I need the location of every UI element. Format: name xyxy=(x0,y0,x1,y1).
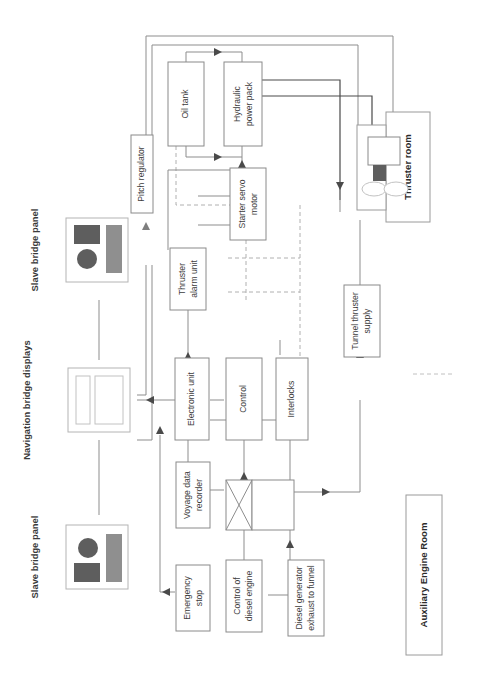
thruster-shaft-icon xyxy=(373,165,386,181)
slave-bridge-panel-top[interactable] xyxy=(66,218,128,282)
diesel-generator-exhaust-label-2: exhaust to funnel xyxy=(306,565,316,631)
node-generator-engine-block[interactable] xyxy=(226,480,294,530)
panel-bottom-lever-icon xyxy=(106,534,122,582)
control-label: Control xyxy=(238,385,248,413)
control-of-diesel-engine-label-2: diesel engine xyxy=(244,570,254,621)
node-control[interactable]: Control xyxy=(226,358,262,440)
arrow-estop-up xyxy=(156,426,164,434)
node-diesel-generator-exhaust[interactable]: Diesel generator exhaust to funnel xyxy=(288,560,324,636)
link-diesel-exhaust xyxy=(268,530,290,595)
auxiliary-engine-room-label: Auxiliary Engine Room xyxy=(418,522,429,627)
thruster-motor-box xyxy=(368,137,400,165)
tunnel-thruster-supply-label-2: supply xyxy=(362,308,372,334)
engine-plain-box[interactable] xyxy=(252,480,294,530)
interlocks-label: Interlocks xyxy=(286,381,296,418)
node-voyage-data-recorder[interactable]: Voyage data recorder xyxy=(176,462,210,528)
panel-top-lever-icon xyxy=(106,225,122,273)
link-estop-loop xyxy=(160,435,175,592)
auxiliary-engine-room-group: Auxiliary Engine Room xyxy=(406,495,442,655)
node-thruster-alarm-unit[interactable]: Thruster alarm unit xyxy=(170,248,206,310)
node-tunnel-thruster-supply[interactable]: Tunnel thruster supply xyxy=(344,285,380,357)
node-starter-servo-motor[interactable]: Starter servo motor xyxy=(230,168,266,240)
voyage-data-recorder-label-1: Voyage data xyxy=(182,471,192,519)
tunnel-thruster-supply-label-1: Tunnel thruster xyxy=(350,292,360,350)
nav-display-screen-wide-icon xyxy=(95,376,123,424)
arrow-estop-right xyxy=(162,588,170,596)
propeller-blade-left-icon xyxy=(362,182,386,196)
link-pitch-down-b xyxy=(137,265,152,440)
node-interlocks[interactable]: Interlocks xyxy=(276,358,308,440)
hydraulic-power-pack-label-1: Hydraulic xyxy=(232,85,242,122)
thruster-alarm-unit-label-1: Thruster xyxy=(177,263,187,295)
thruster-alarm-unit-box[interactable] xyxy=(170,248,206,310)
arrow-exhaust-up xyxy=(286,540,294,548)
node-emergency-stop[interactable]: Emergency stop xyxy=(176,565,210,631)
arrow-eu-nav xyxy=(146,396,154,404)
link-servo-left xyxy=(168,170,230,250)
arrow-hpp-bottom xyxy=(214,153,222,161)
slave-bridge-panel-bottom[interactable] xyxy=(66,525,128,589)
voyage-data-recorder-label-2: recorder xyxy=(194,479,204,511)
link-hpp-thruster-dark-2 xyxy=(262,96,372,160)
navigation-bridge-displays-label: Navigation bridge displays xyxy=(21,340,32,459)
thruster-control-diagram: Thruster room Auxiliary Engine Room Pitc… xyxy=(0,0,482,694)
propeller-blade-right-icon xyxy=(384,182,408,196)
node-hydraulic-power-pack[interactable]: Hydraulic power pack xyxy=(224,62,262,146)
link-pitch-down-a xyxy=(137,265,146,395)
starter-servo-motor-label-1: Starter servo xyxy=(237,179,247,228)
arrow-hpp-thruster xyxy=(336,182,344,190)
starter-servo-motor-label-2: motor xyxy=(249,193,259,215)
slave-bridge-panel-bottom-label: Slave bridge panel xyxy=(29,516,40,599)
node-electronic-unit[interactable]: Electronic unit xyxy=(175,358,209,440)
electronic-unit-label: Electronic unit xyxy=(186,371,196,426)
node-control-of-diesel-engine[interactable]: Control of diesel engine xyxy=(226,560,262,632)
nav-display-screen-narrow-icon xyxy=(76,376,90,424)
hydraulic-power-pack-label-2: power pack xyxy=(244,81,254,126)
thruster-room-group: Thruster room xyxy=(357,112,430,222)
node-pitch-regulator[interactable]: Pitch regulator xyxy=(131,135,153,213)
node-oil-tank[interactable]: Oil tank xyxy=(168,62,204,146)
pitch-regulator-label: Pitch regulator xyxy=(136,146,146,202)
emergency-stop-box[interactable] xyxy=(176,565,210,631)
emergency-stop-label-2: stop xyxy=(194,590,204,606)
arrow-pitch-up xyxy=(142,222,150,230)
panel-bottom-knob-icon xyxy=(78,538,98,558)
arrow-oiltank-hpp xyxy=(214,48,222,56)
arrow-servo-up xyxy=(238,160,246,168)
panel-top-knob-icon xyxy=(77,249,97,269)
slave-bridge-panel-top-label: Slave bridge panel xyxy=(29,209,40,292)
panel-bottom-display-icon xyxy=(74,563,100,582)
arrow-control-gen xyxy=(240,472,248,480)
hydraulic-power-pack-box[interactable] xyxy=(224,62,262,146)
emergency-stop-label-1: Emergency xyxy=(182,576,192,620)
navigation-bridge-display[interactable] xyxy=(68,368,130,432)
control-of-diesel-engine-label-1: Control of xyxy=(232,577,242,615)
diesel-generator-exhaust-label-1: Diesel generator xyxy=(294,566,304,629)
oil-tank-label: Oil tank xyxy=(180,89,190,119)
voyage-data-recorder-box[interactable] xyxy=(176,462,210,528)
starter-servo-motor-box[interactable] xyxy=(230,168,266,240)
link-hpp-thruster-dark xyxy=(262,80,340,200)
arrow-gen-tunnel xyxy=(322,488,330,496)
diagram-canvas: Thruster room Auxiliary Engine Room Pitc… xyxy=(0,0,482,694)
panel-top-display-icon xyxy=(74,225,100,244)
thruster-alarm-unit-label-2: alarm unit xyxy=(189,260,199,298)
